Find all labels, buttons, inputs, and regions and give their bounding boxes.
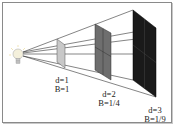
panel-d1-label: d=1 B=1 <box>50 76 74 94</box>
panel-d2-label: d=2 B=1/4 <box>94 90 124 108</box>
light-bulb-icon <box>9 45 25 64</box>
brightness-label: B=1 <box>50 85 74 94</box>
panel-d3 <box>133 10 156 97</box>
panel-d2 <box>95 24 111 80</box>
brightness-label: B=1/9 <box>140 115 170 124</box>
panel-d3-label: d=3 B=1/9 <box>140 106 170 124</box>
brightness-label: B=1/4 <box>94 99 124 108</box>
